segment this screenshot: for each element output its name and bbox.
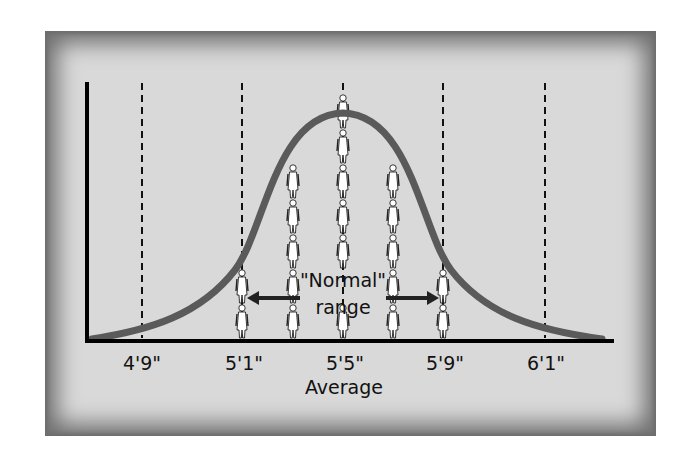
x-tick-label: 4'9" [123,352,161,374]
average-label: Average [305,376,383,398]
x-tick-label: 6'1" [527,352,565,374]
normal-label-line1: "Normal" [300,269,386,291]
x-tick-label: 5'9" [426,352,464,374]
x-tick-label: 5'1" [225,352,263,374]
normal-label-line2: range [315,296,370,318]
bell-curve-chart: "Normal" range 4'9" 5'1" 5'5" 5'9" 6'1" … [0,0,686,463]
x-tick-label: 5'5" [326,352,364,374]
